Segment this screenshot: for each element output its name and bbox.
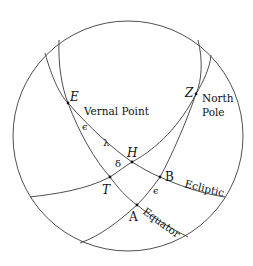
symbol-lambda: λ: [103, 137, 110, 148]
arc-e-t-a-equator: [59, 40, 188, 237]
arc-e-h-b-ecliptic: [45, 53, 225, 197]
label-pole: Pole: [202, 106, 225, 118]
symbol-epsilon-upper: ϵ: [82, 121, 88, 132]
label-t: T: [102, 183, 111, 197]
symbol-delta: δ: [115, 158, 121, 169]
label-ecliptic: Ecliptic: [184, 177, 226, 198]
label-equator: Equator: [141, 205, 184, 241]
point-z: [195, 93, 198, 96]
point-a: [136, 204, 139, 207]
label-z: Z: [184, 86, 194, 100]
point-h: [131, 161, 134, 164]
sphere-outline: [13, 21, 243, 251]
label-b: B: [165, 170, 174, 184]
arc-z-h-t: [30, 40, 201, 197]
label-h: H: [126, 146, 138, 160]
symbol-epsilon-lower: ϵ: [153, 185, 159, 196]
point-t: [109, 176, 112, 179]
label-a: A: [128, 210, 138, 224]
label-e: E: [69, 90, 79, 104]
label-vernal-point: Vernal Point: [83, 105, 150, 117]
point-e: [67, 102, 70, 105]
point-b: [159, 176, 162, 179]
label-north: North: [202, 92, 234, 104]
celestial-sphere-diagram: E Z H T B A Vernal Point North Pole Ecli…: [0, 0, 253, 266]
